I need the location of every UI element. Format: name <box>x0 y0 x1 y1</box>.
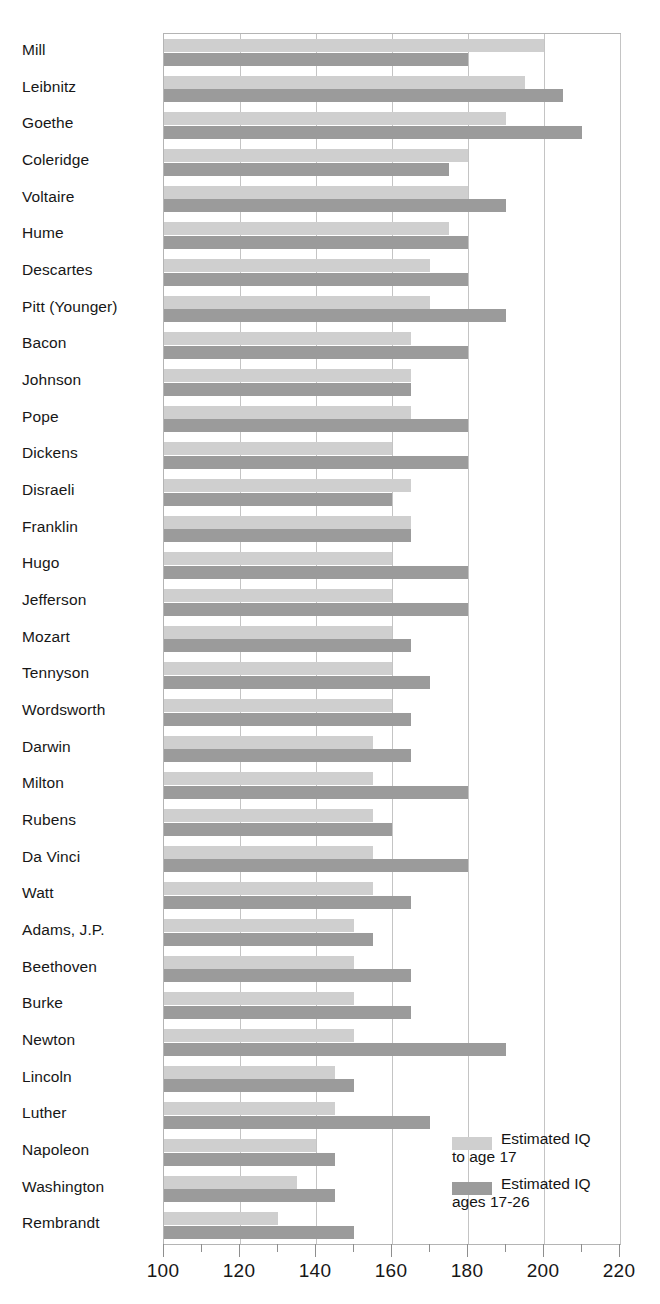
x-tick-label-120: 120 <box>223 1260 256 1282</box>
bar-rembrandt-series-1 <box>164 1212 278 1225</box>
category-label: Beethoven <box>0 959 148 975</box>
bar-voltaire-series-2 <box>164 199 506 212</box>
bar-tennyson-series-2 <box>164 676 430 689</box>
category-label: Newton <box>0 1032 148 1048</box>
category-label: Bacon <box>0 335 148 351</box>
category-label: Da Vinci <box>0 849 148 865</box>
bar-tennyson-series-1 <box>164 662 392 675</box>
bar-disraeli-series-1 <box>164 479 411 492</box>
bar-rubens-series-1 <box>164 809 373 822</box>
bar-johnson-series-1 <box>164 369 411 382</box>
minor-tick-150 <box>353 1244 354 1252</box>
bar-adams-j-p-series-1 <box>164 919 354 932</box>
bar-darwin-series-1 <box>164 736 373 749</box>
bar-hugo-series-2 <box>164 566 468 579</box>
major-tick-100 <box>163 1244 164 1257</box>
bar-burke-series-2 <box>164 1006 411 1019</box>
category-label: Pitt (Younger) <box>0 299 148 315</box>
bar-milton-series-1 <box>164 772 373 785</box>
x-tick-label-100: 100 <box>147 1260 180 1282</box>
category-label: Milton <box>0 775 148 791</box>
bar-wordsworth-series-2 <box>164 713 411 726</box>
bar-johnson-series-2 <box>164 383 411 396</box>
bar-descartes-series-2 <box>164 273 468 286</box>
category-label: Pope <box>0 409 148 425</box>
category-label: Descartes <box>0 262 148 278</box>
category-label: Darwin <box>0 739 148 755</box>
bar-leibnitz-series-2 <box>164 89 563 102</box>
category-label: Leibnitz <box>0 79 148 95</box>
category-label: Voltaire <box>0 189 148 205</box>
bar-voltaire-series-1 <box>164 186 468 199</box>
bar-mozart-series-2 <box>164 639 411 652</box>
bar-milton-series-2 <box>164 786 468 799</box>
category-label: Burke <box>0 995 148 1011</box>
category-label: Napoleon <box>0 1142 148 1158</box>
bar-pitt-younger-series-1 <box>164 296 430 309</box>
x-tick-label-200: 200 <box>527 1260 560 1282</box>
category-label: Tennyson <box>0 665 148 681</box>
gridline-200 <box>544 34 545 1244</box>
plot-area <box>163 33 621 1245</box>
category-label: Johnson <box>0 372 148 388</box>
x-axis-tick-labels: 100120140160180200220 <box>0 1260 660 1290</box>
bar-goethe-series-2 <box>164 126 582 139</box>
minor-tick-170 <box>429 1244 430 1252</box>
bar-wordsworth-series-1 <box>164 699 392 712</box>
category-label: Rubens <box>0 812 148 828</box>
bar-coleridge-series-1 <box>164 149 468 162</box>
legend-swatch-dark <box>452 1182 492 1195</box>
bar-adams-j-p-series-2 <box>164 933 373 946</box>
bar-darwin-series-2 <box>164 749 411 762</box>
major-tick-180 <box>467 1244 468 1257</box>
bar-pope-series-1 <box>164 406 411 419</box>
bar-pope-series-2 <box>164 419 468 432</box>
bar-coleridge-series-2 <box>164 163 449 176</box>
bar-luther-series-2 <box>164 1116 430 1129</box>
minor-tick-190 <box>505 1244 506 1252</box>
x-tick-label-220: 220 <box>603 1260 636 1282</box>
category-label: Wordsworth <box>0 702 148 718</box>
bar-franklin-series-1 <box>164 516 411 529</box>
gridline-220 <box>620 34 621 1244</box>
bar-goethe-series-1 <box>164 112 506 125</box>
bar-mozart-series-1 <box>164 626 392 639</box>
bar-luther-series-1 <box>164 1102 335 1115</box>
bar-pitt-younger-series-2 <box>164 309 506 322</box>
category-label: Mill <box>0 42 148 58</box>
category-label: Mozart <box>0 629 148 645</box>
bar-mill-series-1 <box>164 39 544 52</box>
category-label: Goethe <box>0 115 148 131</box>
bar-beethoven-series-2 <box>164 969 411 982</box>
bar-bacon-series-2 <box>164 346 468 359</box>
x-tick-label-140: 140 <box>299 1260 332 1282</box>
major-tick-200 <box>543 1244 544 1257</box>
bar-jefferson-series-1 <box>164 589 392 602</box>
category-label: Watt <box>0 885 148 901</box>
bar-jefferson-series-2 <box>164 603 468 616</box>
bar-napoleon-series-2 <box>164 1153 335 1166</box>
category-label: Dickens <box>0 445 148 461</box>
legend-swatch-light <box>452 1137 492 1150</box>
category-label: Hugo <box>0 555 148 571</box>
bar-rembrandt-series-2 <box>164 1226 354 1239</box>
x-axis <box>163 1244 621 1258</box>
bar-hugo-series-1 <box>164 552 392 565</box>
category-label: Hume <box>0 225 148 241</box>
category-label: Rembrandt <box>0 1215 148 1231</box>
category-label: Jefferson <box>0 592 148 608</box>
legend-entry: Estimated IQ to age 17 <box>452 1130 612 1166</box>
bar-newton-series-1 <box>164 1029 354 1042</box>
chart-legend: Estimated IQ to age 17Estimated IQ ages … <box>452 1130 612 1220</box>
major-tick-120 <box>239 1244 240 1257</box>
category-label: Coleridge <box>0 152 148 168</box>
legend-entry: Estimated IQ ages 17-26 <box>452 1175 612 1211</box>
x-tick-label-160: 160 <box>375 1260 408 1282</box>
bar-rubens-series-2 <box>164 823 392 836</box>
bar-dickens-series-1 <box>164 442 392 455</box>
gridline-180 <box>468 34 469 1244</box>
bar-beethoven-series-1 <box>164 956 354 969</box>
bar-leibnitz-series-1 <box>164 76 525 89</box>
bar-hume-series-1 <box>164 222 449 235</box>
category-label: Disraeli <box>0 482 148 498</box>
